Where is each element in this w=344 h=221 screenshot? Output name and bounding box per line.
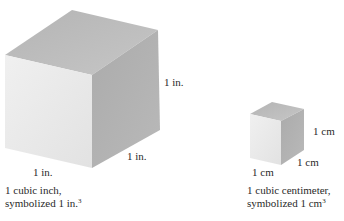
large-cube-height-label: 1 in. [164,76,184,88]
small-cube [250,102,304,165]
small-cube-caption-line2: symbolized 1 cm3 [247,197,331,210]
large-cube-caption-line2: symbolized 1 in.3 [5,197,82,210]
small-cube-front-face [250,114,281,165]
small-cube-depth-label: 1 cm [297,156,319,168]
large-cube [5,10,160,168]
small-cube-exponent: 3 [322,197,326,205]
small-cube-caption-line1: 1 cubic centimeter, [247,184,331,197]
large-cube-depth-label: 1 in. [127,150,147,162]
large-cube-exponent: 3 [78,197,82,205]
small-cube-height-label: 1 cm [313,125,335,137]
large-cube-caption: 1 cubic inch, symbolized 1 in.3 [5,184,82,210]
small-cube-width-label: 1 cm [252,166,274,178]
large-cube-width-label: 1 in. [33,166,53,178]
small-cube-caption: 1 cubic centimeter, symbolized 1 cm3 [247,184,331,210]
large-cube-caption-line1: 1 cubic inch, [5,184,82,197]
small-cube-symbol: symbolized 1 cm [247,197,322,209]
large-cube-symbol: symbolized 1 in. [5,197,78,209]
